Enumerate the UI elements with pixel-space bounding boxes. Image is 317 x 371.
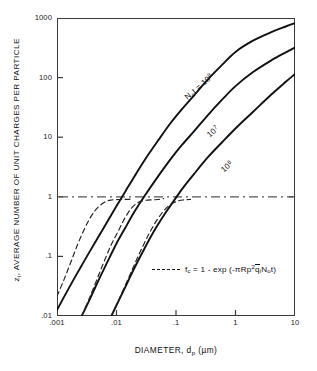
x-tick-label: .1: [156, 318, 196, 327]
y-axis-symbol: z: [12, 277, 21, 282]
y-tick-label: 100: [39, 73, 52, 82]
eq-body: = 1 - exp (-πR: [191, 265, 247, 274]
y-tick-label: 10: [43, 132, 52, 141]
legend: fc = 1 - exp (-πRp2qiNot): [152, 264, 276, 274]
y-axis-title: zi, AVERAGE NUMBER OF UNIT CHARGES PER P…: [12, 10, 22, 310]
chart-figure: .01.11101001000 .001.01.1110 zi, AVERAGE…: [0, 0, 317, 371]
curve-2: [111, 74, 295, 316]
eq-q: q: [255, 265, 260, 274]
curve-3: [57, 199, 133, 297]
y-tick-label: .1: [45, 251, 52, 260]
x-tick-label: .01: [97, 318, 137, 327]
overline-bar: [255, 264, 260, 265]
x-axis-tick-labels: .001.01.1110: [0, 318, 317, 332]
x-tick-label: 1: [216, 318, 256, 327]
y-tick-label: 1: [48, 192, 52, 201]
legend-dashed-line-swatch: [152, 269, 180, 270]
eq-q-overline-group: q: [255, 265, 260, 274]
y-axis-title-text: , AVERAGE NUMBER OF UNIT CHARGES PER PAR…: [12, 38, 21, 275]
x-tick-label: 10: [275, 318, 315, 327]
legend-equation-text: fc = 1 - exp (-πRp2qiNot): [185, 264, 276, 274]
x-axis-unit-text: (µm): [198, 345, 217, 355]
y-tick-label: 1000: [35, 13, 52, 22]
x-tick-label: .001: [37, 318, 77, 327]
curve-4: [82, 199, 164, 316]
y-axis-tick-labels: .01.11101001000: [18, 0, 52, 371]
eq-t: t): [271, 265, 276, 274]
x-axis-title: DIAMETER, dp (µm): [57, 345, 295, 356]
x-axis-title-prefix: DIAMETER, d: [135, 345, 192, 355]
curve-5: [111, 199, 190, 316]
y-axis-symbol-subscript: i: [16, 275, 22, 277]
